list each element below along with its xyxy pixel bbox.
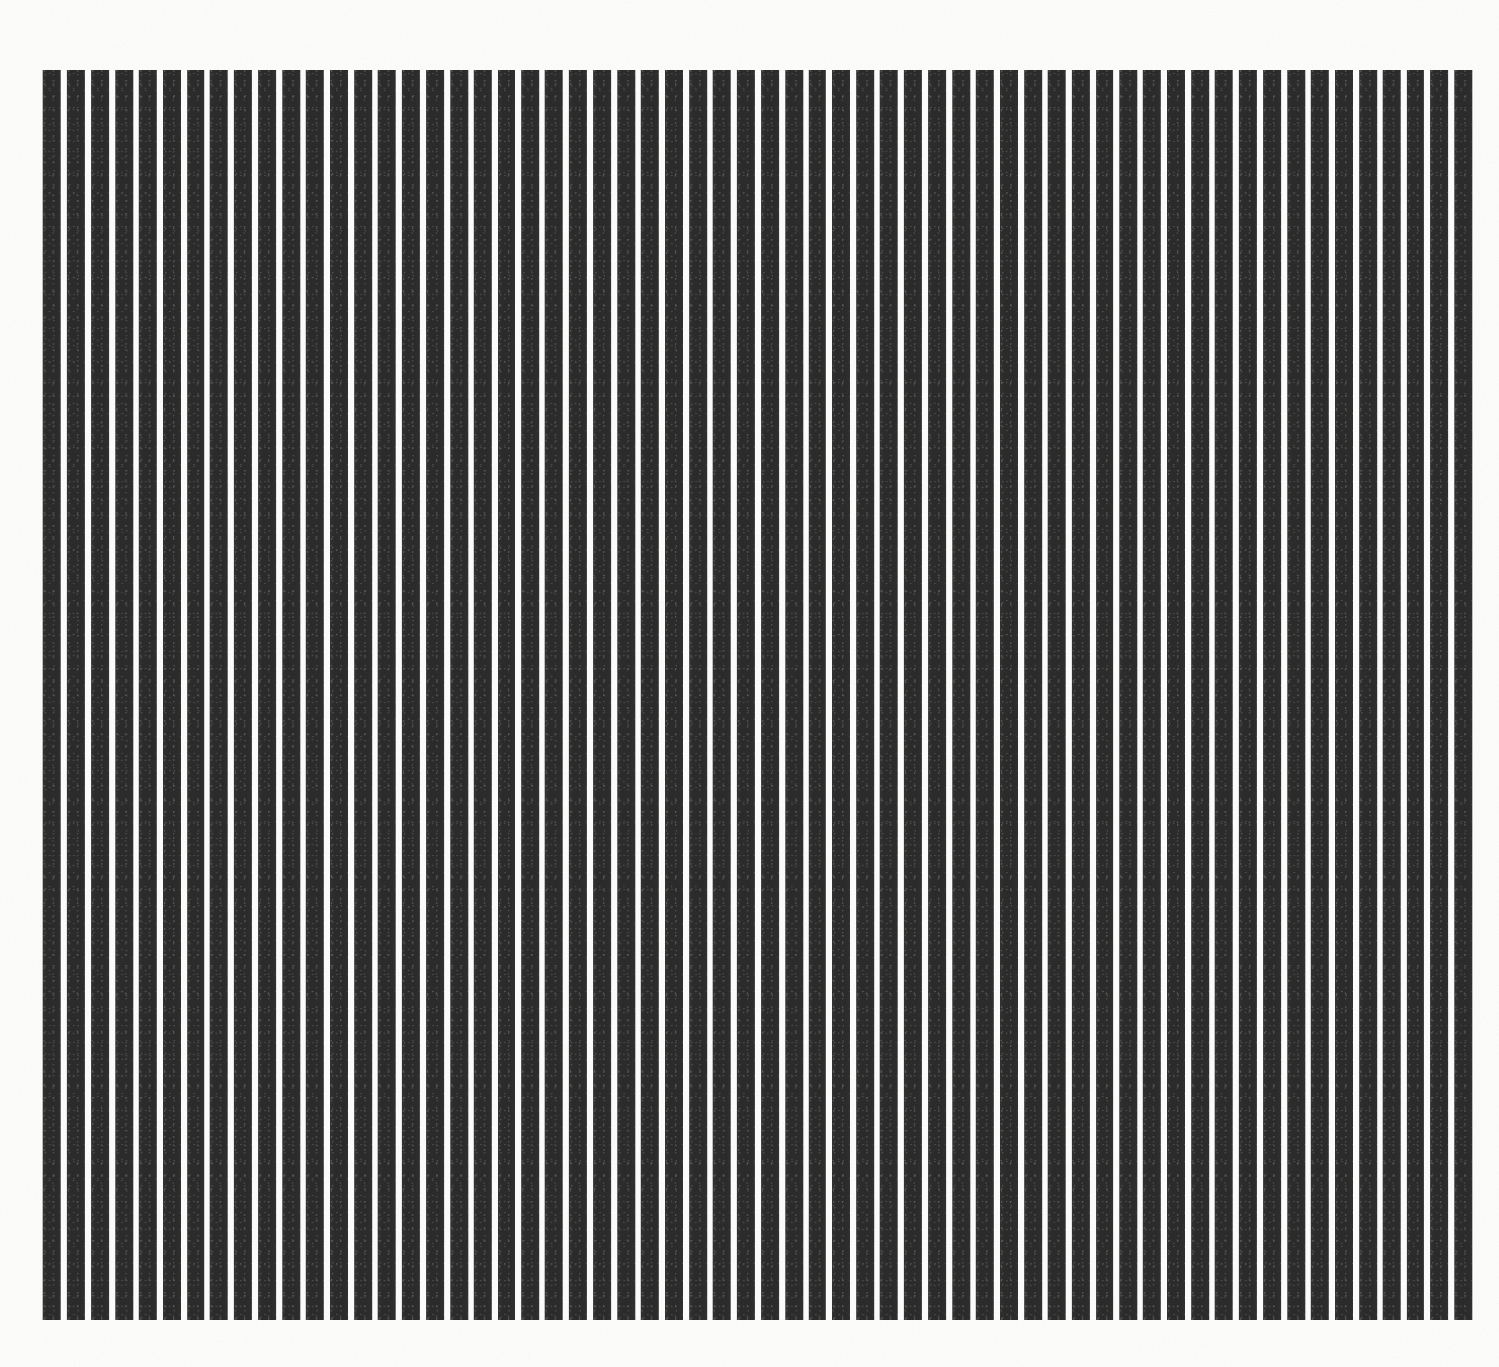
- stripe-bar: [665, 70, 683, 1320]
- stripe-bar: [187, 70, 205, 1320]
- stripe-bar: [43, 70, 61, 1320]
- stripe-bar: [569, 70, 587, 1320]
- stripe-bar: [378, 70, 396, 1320]
- stripe-bar: [713, 70, 731, 1320]
- stripe-bar: [808, 70, 826, 1320]
- stripe-bar: [402, 70, 420, 1320]
- stripe-bar: [737, 70, 755, 1320]
- stripe-bar: [785, 70, 803, 1320]
- stripe-bar: [498, 70, 516, 1320]
- stripe-bar: [138, 70, 156, 1320]
- stripe-bar: [976, 70, 994, 1320]
- stripe-bar: [857, 70, 875, 1320]
- stripe-bar: [761, 70, 779, 1320]
- stripe-bar: [689, 70, 707, 1320]
- stripe-bar: [617, 70, 635, 1320]
- stripe-bar: [1311, 70, 1329, 1320]
- stripe-bar: [1072, 70, 1090, 1320]
- stripe-bar: [1263, 70, 1281, 1320]
- artwork-canvas: [0, 0, 1499, 1367]
- stripe-bar: [450, 70, 468, 1320]
- stripe-bar: [1191, 70, 1209, 1320]
- stripe-bar: [952, 70, 970, 1320]
- stripe-bar: [283, 70, 301, 1320]
- stripe-bar: [330, 70, 348, 1320]
- stripe-bar: [473, 70, 491, 1320]
- stripe-bar: [1455, 70, 1473, 1320]
- stripe-bar: [832, 70, 850, 1320]
- stripe-bar: [593, 70, 611, 1320]
- stripe-bar: [1215, 70, 1233, 1320]
- stripe-bar: [1024, 70, 1042, 1320]
- stripe-bar: [880, 70, 898, 1320]
- stripe-bar: [306, 70, 324, 1320]
- stripe-bar: [426, 70, 444, 1320]
- stripe-bar: [67, 70, 85, 1320]
- stripe-bar: [354, 70, 372, 1320]
- stripe-bar: [1239, 70, 1257, 1320]
- stripe-bar: [1047, 70, 1065, 1320]
- stripe-field: [43, 70, 1472, 1320]
- stripe-bar: [91, 70, 109, 1320]
- stripe-bar: [1382, 70, 1400, 1320]
- stripe-bar: [928, 70, 946, 1320]
- stripe-bar: [210, 70, 228, 1320]
- stripe-bar: [904, 70, 922, 1320]
- stripe-bar: [545, 70, 563, 1320]
- stripe-bar: [1287, 70, 1305, 1320]
- stripe-bar: [1000, 70, 1018, 1320]
- stripe-bar: [522, 70, 540, 1320]
- stripe-bar: [163, 70, 181, 1320]
- stripe-bar: [1120, 70, 1138, 1320]
- stripe-bar: [1167, 70, 1185, 1320]
- stripe-bar: [115, 70, 133, 1320]
- stripe-bar: [1406, 70, 1424, 1320]
- stripe-bar: [234, 70, 252, 1320]
- stripe-bar: [1096, 70, 1114, 1320]
- stripe-bar: [1431, 70, 1449, 1320]
- stripe-bar: [1359, 70, 1377, 1320]
- stripe-bar: [258, 70, 276, 1320]
- stripe-bar: [1143, 70, 1161, 1320]
- stripe-bar: [641, 70, 659, 1320]
- stripe-bar: [1335, 70, 1353, 1320]
